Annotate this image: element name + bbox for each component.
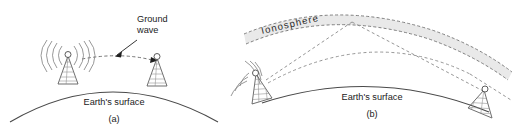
antenna-receiver-b bbox=[462, 86, 496, 120]
tower-outline bbox=[147, 58, 167, 86]
antenna-knob bbox=[154, 54, 160, 60]
panel-a: Ground wave Earth's surface (a) bbox=[10, 14, 218, 124]
antenna-knob bbox=[65, 52, 71, 58]
figure-canvas: Ground wave Earth's surface (a) Ionosphe… bbox=[0, 0, 517, 127]
radio-propagation-figure: Ground wave Earth's surface (a) Ionosphe… bbox=[0, 0, 517, 127]
tower-hatching bbox=[142, 57, 172, 88]
antenna-transmitter-b bbox=[231, 61, 276, 106]
panel-caption-a: (a) bbox=[108, 114, 119, 124]
ground-wave-label-line1: Ground bbox=[137, 14, 168, 24]
antenna-receiver-a bbox=[142, 54, 172, 89]
ground-wave-leader-line bbox=[117, 40, 137, 55]
antenna-transmitter-a bbox=[41, 40, 95, 86]
ground-wave-label-line2: wave bbox=[136, 25, 158, 35]
earth-surface-label-a: Earth's surface bbox=[84, 97, 145, 107]
antenna-knob bbox=[482, 86, 488, 92]
ground-wave-leader-arrowhead bbox=[115, 52, 122, 58]
earth-surface-label-b: Earth's surface bbox=[342, 92, 403, 102]
radiation-waves-icon bbox=[231, 61, 262, 96]
panel-b: Ionosphere bbox=[231, 12, 512, 120]
tower-outline bbox=[58, 56, 78, 84]
skywave-secondary-ray bbox=[268, 52, 470, 83]
antenna-knob bbox=[253, 70, 259, 76]
panel-caption-b: (b) bbox=[366, 109, 377, 119]
tower-hatching bbox=[53, 55, 83, 86]
ionosphere-label: Ionosphere bbox=[260, 12, 320, 36]
